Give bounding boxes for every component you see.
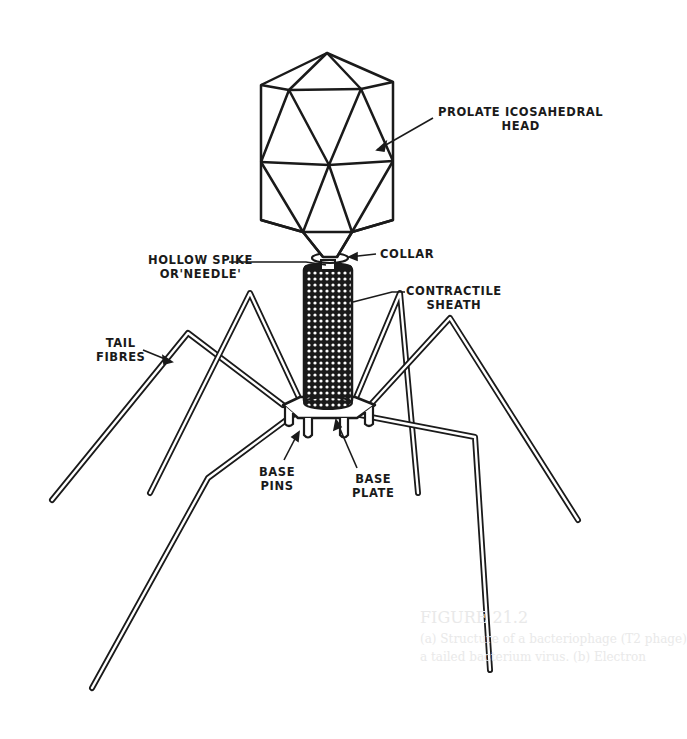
label-hollow-spike: HOLLOW SPIKE OR'NEEDLE' [148, 253, 253, 281]
label-plate-line1: BASE [352, 472, 394, 486]
label-head-line1: PROLATE ICOSAHEDRAL [438, 105, 603, 119]
base-pin-mid-left [304, 418, 312, 438]
bleed-through-caption-line: (a) Structure of a bacteriophage (T2 pha… [420, 632, 687, 646]
bleed-through-caption-title: FIGURE 21.2 [420, 608, 528, 627]
label-fibres-line2: FIBRES [96, 350, 146, 364]
label-base-pins: BASE PINS [259, 465, 295, 493]
label-base-plate: BASE PLATE [352, 472, 394, 500]
label-sheath-line1: CONTRACTILE [406, 284, 502, 298]
label-pins-line2: PINS [259, 479, 295, 493]
label-contractile-sheath: CONTRACTILE SHEATH [406, 284, 502, 312]
label-pins-line1: BASE [259, 465, 295, 479]
label-fibres-line1: TAIL [96, 336, 146, 350]
tail-fibre-e [92, 412, 297, 688]
label-sheath-line2: SHEATH [406, 298, 502, 312]
label-plate-line2: PLATE [352, 486, 394, 500]
label-tail-fibres: TAIL FIBRES [96, 336, 146, 364]
label-head-line2: HEAD [438, 119, 603, 133]
label-spike-line1: HOLLOW SPIKE [148, 253, 253, 267]
label-collar: COLLAR [380, 247, 434, 261]
label-head: PROLATE ICOSAHEDRAL HEAD [438, 105, 603, 133]
contractile-sheath [304, 262, 352, 409]
label-collar-line1: COLLAR [380, 247, 434, 261]
bleed-through-caption-line: a tailed bacterium virus. (b) Electron [420, 650, 646, 664]
icosahedral-head [261, 53, 393, 257]
label-spike-line2: OR'NEEDLE' [148, 267, 253, 281]
